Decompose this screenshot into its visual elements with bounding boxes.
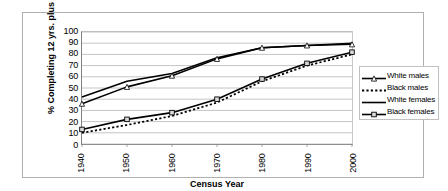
legend-label: Black females [387,107,434,116]
legend-item: White males [361,69,436,81]
chart-frame: % Completing 12 yrs. plus 01020304050607… [22,12,424,178]
chart-screenshot: % Completing 12 yrs. plus 01020304050607… [0,0,448,191]
legend-label: White males [387,71,429,80]
x-tick-label: 1950 [121,148,131,178]
y-tick-label: 0 [56,141,78,150]
legend-label: White females [387,95,435,104]
plot-area [81,31,353,145]
x-tick-label: 1990 [303,148,313,178]
y-tick-label: 20 [56,118,78,127]
y-axis-ticks: 0102030405060708090100 [53,31,78,145]
y-tick-label: 100 [56,27,78,36]
y-tick-label: 10 [56,129,78,138]
x-tick-label: 2000 [348,148,358,178]
chart-legend: White malesBlack malesWhite femalesBlack… [359,66,439,120]
y-tick-label: 60 [56,72,78,81]
legend-item: Black females [361,105,436,117]
y-tick-label: 90 [56,38,78,47]
y-tick-label: 50 [56,84,78,93]
legend-key-square-icon [361,106,387,117]
legend-key-none-icon [361,94,387,105]
x-axis-ticks: 1940195019601970198019902000 [81,147,353,177]
legend-key-triangle-icon [361,70,387,81]
x-tick-label: 1960 [167,148,177,178]
series-lines [82,32,352,144]
y-tick-label: 40 [56,95,78,104]
x-tick-label: 1970 [212,148,222,178]
y-tick-label: 30 [56,106,78,115]
legend-key-none-icon [361,82,387,93]
x-tick-label: 1980 [257,148,267,178]
legend-item: White females [361,93,436,105]
x-axis-title: Census Year [81,179,353,189]
legend-label: Black males [387,83,428,92]
y-tick-label: 80 [56,49,78,58]
x-tick-label: 1940 [76,148,86,178]
y-tick-label: 70 [56,61,78,70]
legend-item: Black males [361,81,436,93]
